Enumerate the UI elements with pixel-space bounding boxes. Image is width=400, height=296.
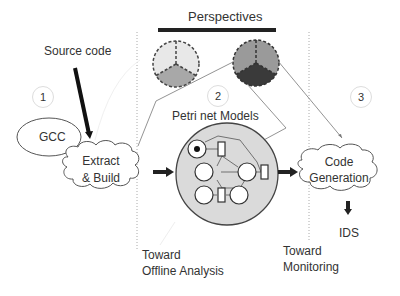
- codegen-line2: Generation: [306, 171, 372, 185]
- perspectives-title: Perspectives: [188, 10, 262, 24]
- offline-analysis-label: Toward Offline Analysis: [142, 248, 224, 278]
- arrowhead-extract-petri: [166, 167, 174, 177]
- source-arrowhead: [85, 131, 93, 139]
- extract-label: Extract & Build: [78, 154, 124, 185]
- code-generation-label: Code Generation: [306, 155, 372, 185]
- extract-line1: Extract: [78, 154, 124, 168]
- step-3-badge: 3: [350, 86, 372, 108]
- offline-line1: Toward: [142, 248, 224, 262]
- perspectives-underline: [158, 28, 276, 32]
- extract-line2: & Build: [78, 171, 124, 185]
- step-2-badge: 2: [207, 85, 229, 107]
- monitoring-line2: Monitoring: [283, 260, 339, 274]
- source-code-arrow: [75, 68, 89, 134]
- petri-net-models-label: Petri net Models: [172, 109, 259, 123]
- monitoring-label: Toward Monitoring: [283, 244, 339, 274]
- connector-arrowhead: [338, 134, 342, 138]
- gcc-label: GCC: [39, 130, 66, 144]
- faint-arc-bottom: [160, 222, 175, 245]
- faint-arc-left: [95, 60, 140, 140]
- ids-label: IDS: [339, 226, 359, 240]
- connector-pie-to-codegen: [278, 61, 342, 138]
- codegen-line1: Code: [306, 155, 372, 169]
- perspective-pie-dark: [233, 40, 279, 86]
- source-code-label: Source code: [44, 44, 111, 58]
- perspective-pie-light: [153, 41, 199, 87]
- petri-net-model: [176, 123, 278, 225]
- arrowhead-ids: [344, 209, 352, 215]
- monitoring-line1: Toward: [283, 244, 339, 258]
- offline-line2: Offline Analysis: [142, 264, 224, 278]
- arrowhead-petri-codegen: [290, 167, 298, 177]
- step-1-badge: 1: [32, 86, 54, 108]
